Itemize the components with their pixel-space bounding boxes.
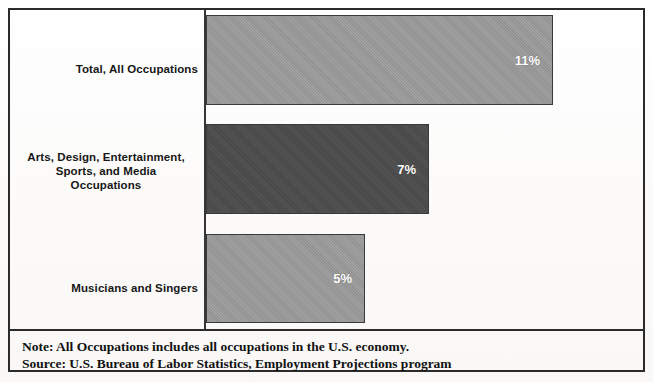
footer-divider: [10, 329, 643, 331]
category-label-musicians-and-singers: Musicians and Singers: [16, 281, 198, 295]
footnote-note: Note: All Occupations includes all occup…: [22, 339, 622, 356]
category-label-arts-design-entertainment-sports-media: Arts, Design, Entertainment, Sports, and…: [12, 150, 200, 192]
bar-value-label-musicians-and-singers: 5%: [333, 271, 352, 286]
category-label-line: Sports, and Media: [12, 164, 200, 178]
category-label-line: Musicians and Singers: [16, 281, 198, 295]
footnote-source: Source: U.S. Bureau of Labor Statistics,…: [22, 356, 622, 373]
plot-area: Total, All Occupations 11% Arts, Design,…: [10, 10, 643, 330]
category-label-total-all-occupations: Total, All Occupations: [16, 62, 198, 76]
category-label-line: Occupations: [12, 178, 200, 192]
bar-arts-design-entertainment-sports-media: 7%: [206, 124, 429, 214]
bar-value-label-arts-design-entertainment-sports-media: 7%: [397, 162, 416, 177]
bar-musicians-and-singers: 5%: [206, 234, 365, 323]
footnotes: Note: All Occupations includes all occup…: [22, 339, 622, 372]
bar-total-all-occupations: 11%: [206, 15, 553, 105]
bar-chart-figure: Total, All Occupations 11% Arts, Design,…: [0, 0, 653, 382]
category-label-line: Total, All Occupations: [16, 62, 198, 76]
bar-value-label-total-all-occupations: 11%: [515, 53, 540, 68]
category-label-line: Arts, Design, Entertainment,: [12, 150, 200, 164]
